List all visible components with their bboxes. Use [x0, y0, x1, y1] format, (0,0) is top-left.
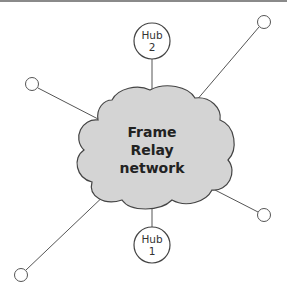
hub-2: Hub 2 [134, 23, 170, 59]
link-right [215, 190, 258, 212]
endpoint-left [26, 78, 39, 91]
hub-2-label: Hub [141, 29, 163, 41]
hub-1-number: 1 [149, 245, 156, 257]
link-bottom-left [26, 190, 110, 270]
hub-2-number: 2 [149, 41, 156, 53]
link-top-right [190, 27, 259, 108]
endpoint-bottom-left [15, 269, 28, 282]
cloud-label-line1: Frame [127, 124, 176, 140]
cloud-label-line2: Relay [130, 142, 173, 158]
frame-relay-diagram: Frame Relay network Hub 2 Hub 1 [0, 0, 287, 295]
endpoint-top-right [258, 16, 271, 29]
endpoint-right [258, 209, 271, 222]
hub-1-label: Hub [141, 233, 163, 245]
hub-1: Hub 1 [134, 227, 170, 263]
cloud-label-line3: network [120, 160, 186, 176]
link-left [38, 88, 100, 120]
